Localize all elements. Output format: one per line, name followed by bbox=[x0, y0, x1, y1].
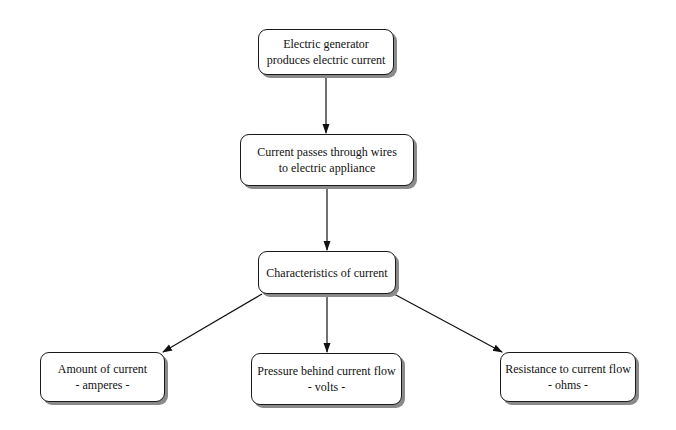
node-text-line: Pressure behind current flow bbox=[257, 363, 395, 379]
node-current-through-wires: Current passes through wires to electric… bbox=[240, 134, 414, 186]
node-text-line: to electric appliance bbox=[279, 160, 376, 176]
node-text-line: Amount of current bbox=[58, 361, 147, 377]
node-amount-of-current: Amount of current - amperes - bbox=[40, 352, 165, 402]
flowchart-canvas: Electric generator produces electric cur… bbox=[0, 0, 676, 430]
node-characteristics-of-current: Characteristics of current bbox=[258, 251, 396, 294]
node-resistance-to-current: Resistance to current flow - ohms - bbox=[500, 352, 636, 402]
node-text-line: - ohms - bbox=[548, 377, 588, 393]
node-text-line: - volts - bbox=[308, 379, 345, 395]
node-text-line: Electric generator bbox=[283, 36, 369, 52]
arrow-characteristics-to-amount bbox=[163, 294, 262, 352]
node-text-line: - amperes - bbox=[76, 377, 130, 393]
node-electric-generator: Electric generator produces electric cur… bbox=[258, 29, 394, 75]
node-text-line: produces electric current bbox=[267, 52, 386, 68]
node-text-line: Current passes through wires bbox=[257, 144, 397, 160]
node-text-line: Resistance to current flow bbox=[505, 361, 631, 377]
node-pressure-behind-current: Pressure behind current flow - volts - bbox=[251, 353, 402, 405]
node-text-line: Characteristics of current bbox=[266, 265, 387, 281]
arrow-characteristics-to-resistance bbox=[394, 294, 502, 352]
